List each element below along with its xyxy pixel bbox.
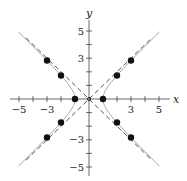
y-axis-label: y — [85, 7, 93, 20]
data-point — [128, 134, 134, 140]
y-tick-label: 5 — [78, 26, 84, 37]
data-point — [58, 119, 64, 125]
data-point — [114, 72, 120, 78]
x-tick-label: 5 — [156, 104, 162, 115]
data-point — [44, 57, 50, 63]
data-point — [58, 72, 64, 78]
x-tick-label: −3 — [40, 104, 55, 115]
data-point — [128, 57, 134, 63]
y-tick-label: −5 — [69, 162, 84, 173]
hyperbola-chart: −5−33553−3−5 x y — [0, 0, 187, 181]
data-point — [72, 96, 78, 102]
data-point — [44, 134, 50, 140]
y-tick-label: 3 — [78, 53, 84, 64]
x-axis-label: x — [173, 93, 180, 106]
x-tick-label: 3 — [128, 104, 134, 115]
x-tick-label: −5 — [12, 104, 27, 115]
data-point — [100, 96, 106, 102]
y-tick-label: −3 — [69, 134, 84, 145]
data-point — [114, 119, 120, 125]
